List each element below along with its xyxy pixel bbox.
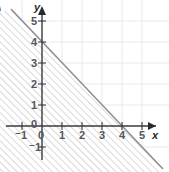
y-axis-label: y bbox=[34, 2, 40, 13]
shaded-solution-region bbox=[0, 11, 160, 172]
coordinate-plane-svg bbox=[0, 0, 169, 172]
y-tick-label-2: 2 bbox=[31, 79, 37, 90]
x-tick-label-2: 2 bbox=[79, 130, 85, 141]
x-axis-label: x bbox=[152, 130, 158, 141]
y-tick-label-5: 5 bbox=[31, 16, 37, 27]
x-tick-label-3: 3 bbox=[99, 130, 105, 141]
y-tick-label-1: 1 bbox=[31, 100, 37, 111]
x-tick-label-1: 1 bbox=[59, 130, 65, 141]
x-tick-label-4: 4 bbox=[119, 130, 125, 141]
y-tick-label-4: 4 bbox=[31, 37, 37, 48]
y-tick-label-3: 3 bbox=[31, 58, 37, 69]
x-tick-label--1: ⁻1 bbox=[15, 130, 27, 141]
graph-figure: ) bbox=[0, 0, 169, 172]
y-tick-label-0: 0 bbox=[31, 119, 37, 130]
x-tick-label-0: 0 bbox=[38, 130, 44, 141]
y-tick-label--1: ⁻1 bbox=[29, 142, 41, 153]
x-tick-label-5: 5 bbox=[139, 130, 145, 141]
